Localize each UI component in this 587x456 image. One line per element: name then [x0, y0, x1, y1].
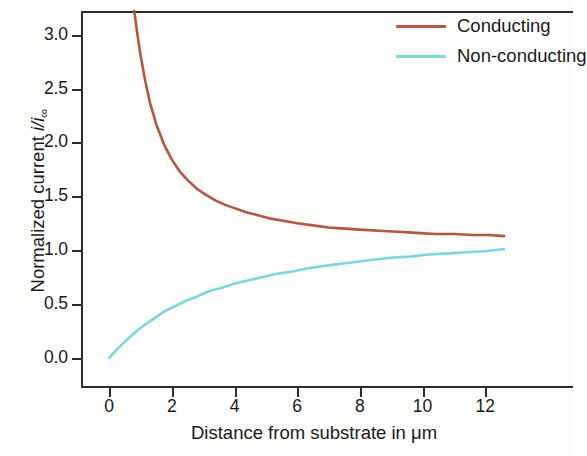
x-axis-tick-label: 8 — [340, 398, 380, 416]
legend-label: Conducting — [457, 17, 551, 36]
legend-item: Non-conducting — [396, 44, 587, 68]
chart-legend: ConductingNon-conducting — [396, 14, 587, 68]
legend-line-swatch — [396, 25, 446, 28]
y-axis-tick — [72, 358, 81, 360]
y-axis-title-prefix: Normalized current — [27, 131, 48, 292]
y-axis-title: Normalized current i/i∞ — [29, 1, 50, 401]
y-axis-tick — [72, 196, 81, 198]
y-axis-title-subscript: ∞ — [37, 109, 51, 118]
x-axis-tick-label: 12 — [465, 398, 505, 416]
y-axis-tick — [72, 250, 81, 252]
y-axis-tick — [72, 35, 81, 37]
x-axis-tick-label: 6 — [277, 398, 317, 416]
y-axis-tick — [72, 142, 81, 144]
legend-label: Non-conducting — [457, 47, 587, 66]
y-axis-tick — [72, 304, 81, 306]
x-axis-title: Distance from substrate in μm — [81, 424, 573, 443]
x-axis-tick-label: 0 — [89, 398, 129, 416]
legend-line-swatch — [396, 55, 446, 58]
x-axis-tick-label: 4 — [215, 398, 255, 416]
y-axis-title-numerator: i — [27, 127, 48, 131]
x-axis-tick-label: 2 — [152, 398, 192, 416]
legend-item: Conducting — [396, 14, 587, 38]
y-axis-tick — [72, 89, 81, 91]
y-axis-title-denominator: i — [27, 118, 48, 122]
x-axis-tick-label: 10 — [403, 398, 443, 416]
y-axis-title-slash: / — [27, 122, 48, 127]
series-line — [109, 249, 504, 358]
